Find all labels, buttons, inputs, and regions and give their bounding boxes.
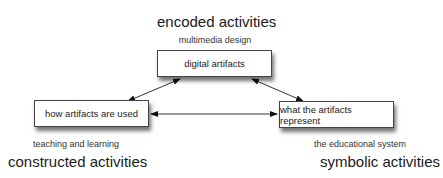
left-subheading: teaching and learning (33, 139, 117, 149)
right-subheading: the educational system (314, 139, 406, 149)
top-subheading: multimedia design (157, 35, 273, 45)
what-artifacts-represent-box: what the artifacts represent (279, 101, 394, 128)
arrow-top-right (252, 79, 303, 101)
left-heading: constructed activities (8, 153, 147, 170)
how-artifacts-used-box: how artifacts are used (34, 100, 149, 127)
right-heading: symbolic activities (320, 153, 440, 170)
arrow-top-left (128, 79, 180, 101)
digital-artifacts-box: digital artifacts (157, 50, 272, 77)
top-heading: encoded activities (157, 13, 273, 30)
